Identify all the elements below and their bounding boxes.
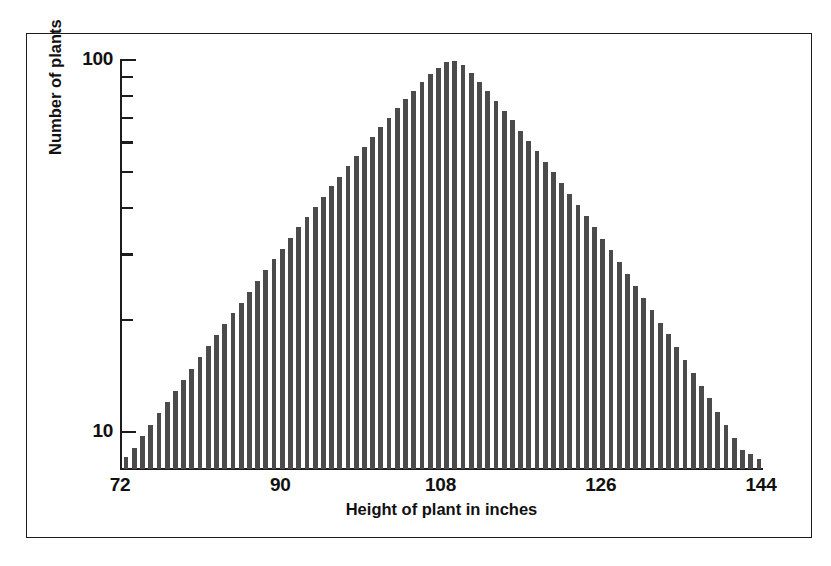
bar — [124, 457, 129, 469]
bar — [707, 398, 712, 469]
bar — [378, 127, 383, 469]
bar — [592, 227, 597, 469]
bar — [724, 425, 729, 469]
bar — [469, 73, 474, 469]
bar — [494, 101, 499, 469]
bar — [633, 286, 638, 469]
x-axis-title: Height of plant in inches — [120, 500, 763, 519]
bar — [691, 373, 696, 469]
bar — [526, 141, 531, 469]
bar — [732, 438, 737, 469]
bar — [132, 448, 137, 469]
bar — [247, 292, 252, 469]
bar — [231, 313, 236, 469]
bar — [140, 436, 145, 469]
bar — [683, 360, 688, 469]
bar — [559, 183, 564, 469]
bar — [461, 65, 466, 469]
bar — [173, 391, 178, 469]
histogram-bars — [120, 59, 763, 469]
figure-canvas: 10100 7290108126144 Height of plant in i… — [0, 0, 831, 566]
bar — [740, 450, 745, 469]
bar — [206, 346, 211, 469]
bar — [411, 91, 416, 469]
bar — [535, 151, 540, 469]
bar — [329, 186, 334, 469]
bar — [428, 74, 433, 469]
bar — [337, 177, 342, 469]
bar — [296, 227, 301, 469]
bar — [666, 334, 671, 469]
bar — [280, 249, 285, 469]
y-axis-tick-label: 10 — [13, 420, 113, 442]
bar — [214, 335, 219, 469]
bar — [641, 298, 646, 469]
bar — [157, 413, 162, 469]
bar — [510, 120, 515, 469]
bar — [272, 259, 277, 469]
bar — [551, 172, 556, 469]
y-axis-title: Number of plants — [46, 0, 65, 155]
bar — [674, 347, 679, 469]
bar — [748, 454, 753, 469]
bar — [239, 303, 244, 469]
bar — [600, 239, 605, 469]
bar — [346, 166, 351, 469]
x-axis-tick-label: 90 — [245, 474, 315, 496]
bar — [354, 156, 359, 469]
bar — [181, 380, 186, 469]
bar — [518, 131, 523, 469]
bar — [420, 82, 425, 469]
x-axis-tick-label: 144 — [726, 474, 796, 496]
bar — [477, 82, 482, 469]
bar — [485, 91, 490, 469]
bar — [263, 270, 268, 469]
bar — [567, 194, 572, 469]
bar — [452, 61, 457, 469]
bar — [288, 238, 293, 469]
bar — [715, 412, 720, 469]
bar — [576, 205, 581, 469]
bar — [165, 402, 170, 469]
bar — [403, 99, 408, 469]
bar — [650, 310, 655, 469]
bar — [436, 68, 441, 469]
x-axis-tick-label: 108 — [406, 474, 476, 496]
bar — [222, 324, 227, 469]
bar — [189, 369, 194, 469]
bar — [313, 207, 318, 469]
bar — [321, 197, 326, 469]
bar — [362, 147, 367, 469]
bar — [387, 118, 392, 469]
bar — [502, 111, 507, 469]
bar — [609, 250, 614, 469]
bar — [617, 262, 622, 469]
bar — [370, 137, 375, 469]
bar — [255, 281, 260, 469]
bar — [305, 217, 310, 469]
bar — [757, 459, 762, 469]
bar — [658, 323, 663, 469]
bar — [198, 357, 203, 469]
bar — [543, 162, 548, 469]
bar — [444, 62, 449, 469]
bar — [625, 274, 630, 469]
bar — [395, 108, 400, 469]
bar — [699, 386, 704, 469]
bar — [148, 425, 153, 469]
x-axis-tick-label: 126 — [566, 474, 636, 496]
x-axis-tick-label: 72 — [85, 474, 155, 496]
bar — [584, 216, 589, 469]
